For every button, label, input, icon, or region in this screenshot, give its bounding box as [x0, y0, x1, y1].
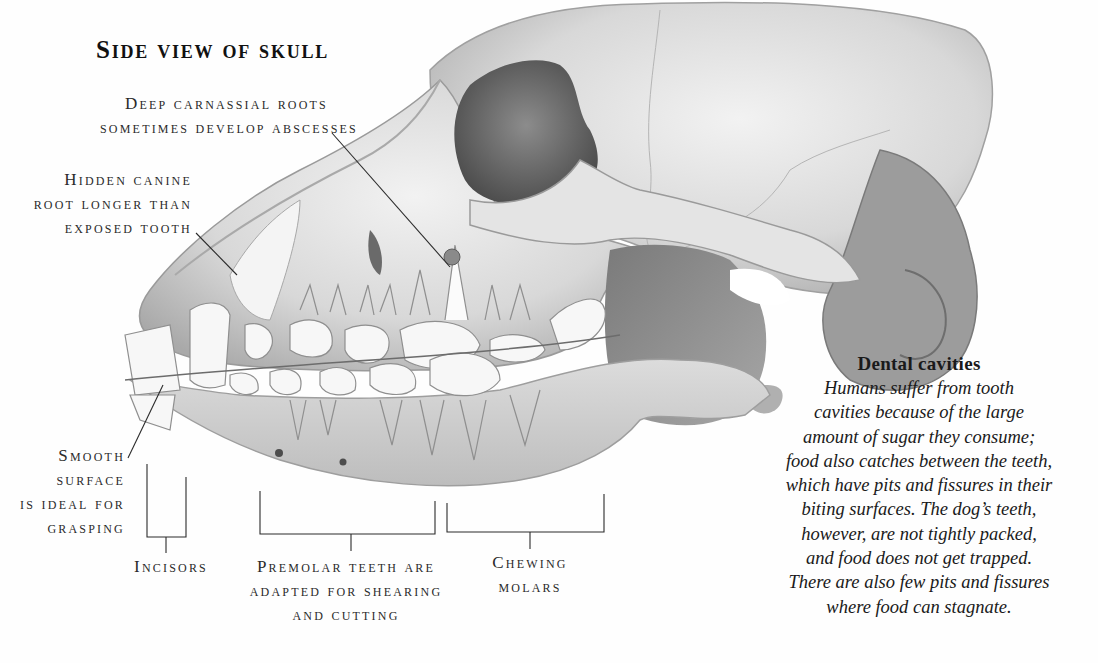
label-line: surface — [0, 468, 125, 492]
mental-foramen — [340, 459, 347, 466]
sidebar-line: amount of sugar they consume; — [740, 425, 1098, 449]
sidebar-heading: Dental cavities — [740, 352, 1098, 376]
sidebar-line: however, are not tightly packed, — [740, 522, 1098, 546]
label-line: molars — [470, 575, 590, 599]
incisors-bracket — [147, 464, 186, 537]
label-carnassial-roots: Deep carnassial roots sometimes develop … — [100, 92, 328, 140]
label-line: Smooth — [0, 444, 125, 468]
label-smooth-surface: Smooth surface is ideal for grasping — [0, 444, 125, 540]
sidebar-line: where food can stagnate. — [740, 595, 1098, 619]
label-chewing-molars: Chewing molars — [470, 551, 590, 599]
molars-bracket — [447, 494, 604, 532]
label-incisors: Incisors — [116, 555, 226, 579]
label-line: is ideal for — [0, 492, 125, 516]
label-line: and cutting — [226, 603, 466, 627]
label-hidden-canine: Hidden canine root longer than exposed t… — [0, 168, 192, 240]
label-line: grasping — [0, 516, 125, 540]
label-line: exposed tooth — [0, 216, 192, 240]
label-line: sometimes develop abscesses — [100, 116, 328, 140]
sidebar-line: food also catches between the teeth, — [740, 449, 1098, 473]
label-line: root longer than — [0, 192, 192, 216]
sidebar-line: Humans suffer from tooth — [740, 376, 1098, 400]
sidebar-line: which have pits and fissures in their — [740, 473, 1098, 497]
label-line: Premolar teeth are — [226, 555, 466, 579]
sidebar-line: biting surfaces. The dog’s teeth, — [740, 497, 1098, 521]
label-line: Hidden canine — [0, 168, 192, 192]
label-line: Incisors — [116, 555, 226, 579]
label-premolar-teeth: Premolar teeth are adapted for shearing … — [226, 555, 466, 627]
label-line: Deep carnassial roots — [100, 92, 328, 116]
dental-cavities-panel: Dental cavities Humans suffer from tooth… — [740, 352, 1098, 619]
label-line: adapted for shearing — [226, 579, 466, 603]
sidebar-line: cavities because of the large — [740, 400, 1098, 424]
premolar-bracket — [260, 491, 435, 534]
sidebar-line: There are also few pits and fissures — [740, 570, 1098, 594]
mental-foramen — [275, 449, 283, 457]
label-line: Chewing — [470, 551, 590, 575]
sidebar-body: Humans suffer from tooth cavities becaus… — [740, 376, 1098, 619]
sidebar-line: and food does not get trapped. — [740, 546, 1098, 570]
diagram-title: Side view of skull — [96, 36, 329, 64]
diagram-page: Side view of skull Deep carnassial roots… — [0, 0, 1098, 663]
